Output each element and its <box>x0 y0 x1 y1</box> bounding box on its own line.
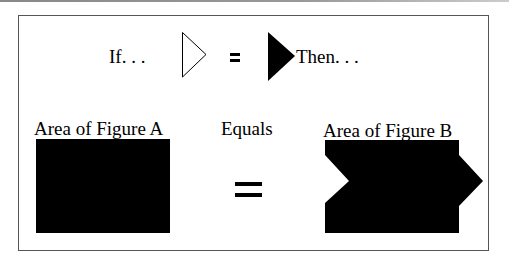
filled-triangle-icon <box>268 32 295 81</box>
outline-triangle-icon <box>183 33 207 78</box>
figure-a-rectangle <box>36 139 170 233</box>
large-equals-icon <box>235 182 262 197</box>
small-equals-icon <box>230 53 240 62</box>
figure-b-shape <box>325 140 483 233</box>
diagram-shapes <box>0 0 509 267</box>
